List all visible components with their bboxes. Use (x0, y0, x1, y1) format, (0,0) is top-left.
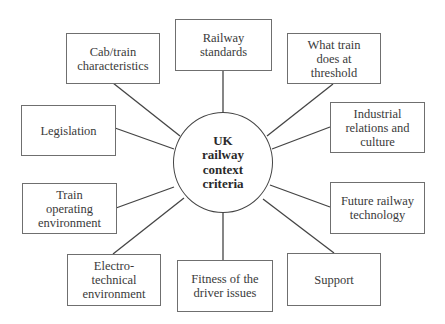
central-node: UK railway context criteria (173, 112, 273, 213)
node-label: Fitness of the (191, 272, 258, 286)
node-label: Electro-technical (72, 259, 156, 287)
node-label: technology (341, 208, 414, 222)
node-label: Railway (200, 31, 247, 45)
connector-future-railway (270, 185, 330, 207)
node-label: relations and (345, 121, 409, 135)
node-industrial-relations: Industrial relations and culture (330, 102, 425, 153)
node-label: Industrial (345, 107, 409, 121)
node-label: Legislation (40, 124, 96, 138)
node-label: Train (38, 188, 101, 202)
node-support: Support (287, 253, 381, 306)
node-label: environment (38, 216, 101, 230)
connector-train-operating (116, 187, 174, 208)
node-label: does at (307, 52, 360, 66)
connector-legislation (115, 128, 174, 149)
node-label: standards (200, 45, 247, 59)
node-legislation: Legislation (21, 105, 116, 156)
node-railway-standards: Railway standards (175, 19, 272, 71)
node-label: culture (345, 135, 409, 149)
node-fitness-driver: Fitness of the driver issues (177, 260, 273, 312)
node-label: driver issues (191, 286, 258, 300)
center-line: criteria (202, 177, 244, 192)
node-label: What train (307, 38, 360, 52)
center-line: UK (202, 134, 244, 149)
connector-support (263, 199, 334, 253)
center-line: context (202, 163, 244, 178)
node-label: threshold (307, 66, 360, 80)
center-line: railway (202, 148, 244, 163)
node-label: Cab/train (77, 45, 148, 59)
node-label: characteristics (77, 59, 148, 73)
node-electro-technical: Electro-technical environment (67, 254, 161, 306)
connector-cab-train (113, 83, 180, 136)
connector-electro-technical (113, 198, 184, 254)
connector-what-train-does (267, 84, 333, 136)
node-cab-train: Cab/train characteristics (66, 33, 160, 84)
connector-industrial-relations (272, 127, 330, 149)
node-label: environment (72, 287, 156, 301)
node-train-operating: Train operating environment (22, 183, 117, 234)
node-label: Future railway (341, 194, 414, 208)
node-future-railway: Future railway technology (330, 182, 425, 234)
node-label: Support (314, 273, 354, 287)
node-what-train-does: What train does at threshold (287, 33, 381, 84)
node-label: operating (38, 202, 101, 216)
